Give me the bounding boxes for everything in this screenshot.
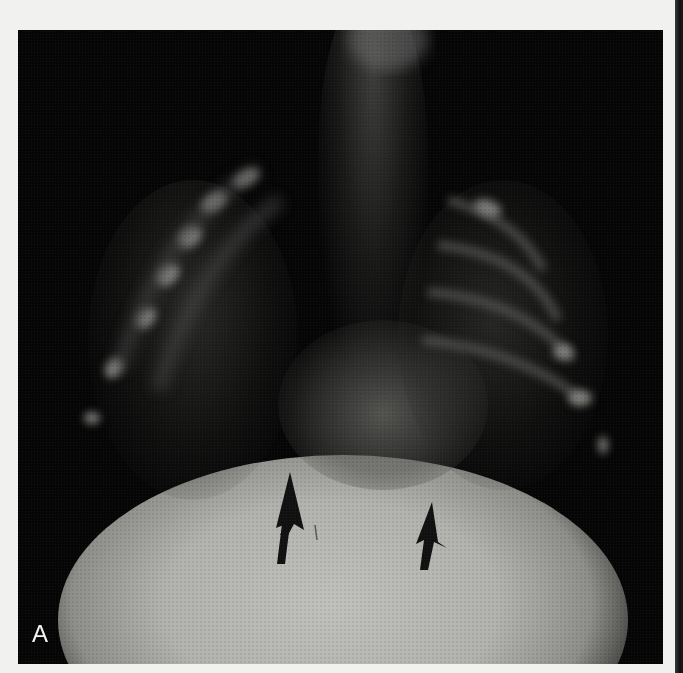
adjacent-panel-edge [675,0,683,673]
right-rib-arcs [423,200,583,400]
radiograph-panel: A [18,30,663,664]
trachea-shadow [348,30,428,70]
panel-label: A [32,620,48,648]
left-arrow-icon [276,472,304,564]
left-rib-arcs [118,170,280,390]
radiograph-details [18,30,663,664]
catheter-mark [315,525,317,540]
right-arrow-icon [416,502,447,570]
left-rib-highlights [84,165,262,424]
